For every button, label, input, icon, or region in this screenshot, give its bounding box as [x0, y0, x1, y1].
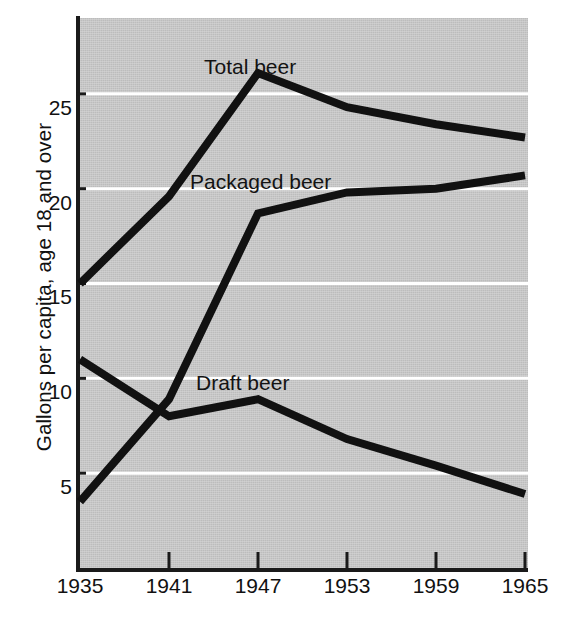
y-tick-label-25: 25 — [28, 97, 72, 118]
x-axis-spine — [76, 568, 528, 572]
series-line-packaged-beer — [80, 175, 525, 501]
series-label-draft-beer: Draft beer — [196, 372, 289, 393]
x-tick-label-1959: 1959 — [413, 575, 460, 596]
x-tick-marks — [169, 552, 525, 568]
y-tick-label-15: 15 — [28, 286, 72, 307]
x-tick-label-1953: 1953 — [324, 575, 371, 596]
x-axis-tick-labels: 1935 1941 1947 1953 1959 1965 — [0, 575, 582, 615]
series-label-total-beer: Total beer — [204, 56, 296, 77]
plot-area: Total beer Packaged beer Draft beer — [80, 18, 528, 568]
y-tick-label-10: 10 — [28, 381, 72, 402]
plot-svg — [80, 18, 528, 568]
y-tick-label-20: 20 — [28, 192, 72, 213]
y-tick-label-5: 5 — [28, 476, 72, 497]
x-tick-label-1941: 1941 — [146, 575, 193, 596]
y-axis-tick-labels: 25 20 15 10 5 — [22, 0, 72, 618]
chart-figure: Gallons per capita, age 18 and over 25 2… — [0, 0, 582, 618]
x-tick-label-1935: 1935 — [57, 575, 104, 596]
series-label-packaged-beer: Packaged beer — [190, 171, 331, 192]
x-tick-label-1965: 1965 — [502, 575, 549, 596]
x-tick-label-1947: 1947 — [235, 575, 282, 596]
data-series-lines — [80, 73, 525, 502]
